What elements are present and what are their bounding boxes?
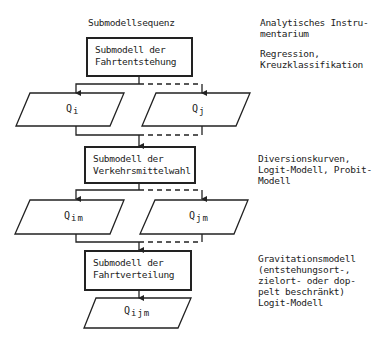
output-qijm: Qijm bbox=[124, 305, 150, 316]
method-trip-distribution: Gravitationsmodell (entstehungsort-, zie… bbox=[258, 253, 356, 308]
output-qj: Qj bbox=[192, 103, 205, 114]
output-qim: Qim bbox=[64, 210, 84, 221]
output-qjm: Qjm bbox=[189, 210, 209, 221]
submodel-trip-generation: Submodell der Fahrtentstehung bbox=[86, 37, 193, 77]
submodel-trip-distribution: Submodell der Fahrtverteilung bbox=[84, 250, 192, 291]
submodel-mode-choice: Submodell der Verkehrsmittelwahl bbox=[84, 146, 196, 184]
method-mode-choice: Diversionskurven, Logit-Modell, Probit- … bbox=[258, 153, 372, 186]
output-qi: Qi bbox=[66, 103, 79, 114]
method-trip-generation: Regression, Kreuzklassifikation bbox=[260, 48, 363, 70]
header-submodel-sequence: Submodellsequenz bbox=[88, 17, 175, 28]
header-analytical-instruments: Analytisches Instru- mentarium bbox=[260, 17, 368, 39]
